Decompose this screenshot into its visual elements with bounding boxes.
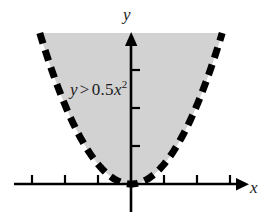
inequality-exponent: 2 [122,78,128,90]
x-axis-arrowhead [236,178,249,191]
inequality-operator: > [78,80,92,99]
x-axis-label: x [250,179,258,196]
inequality-lhs: y [70,80,78,99]
y-axis-label: y [123,6,131,23]
coordinate-plane-svg [0,0,266,223]
inequality-variable: x [114,80,122,99]
inequality-coefficient: 0.5 [92,80,114,99]
inequality-graph-figure: y x y>0.5x2 [0,0,266,223]
inequality-annotation-label: y>0.5x2 [70,80,128,100]
